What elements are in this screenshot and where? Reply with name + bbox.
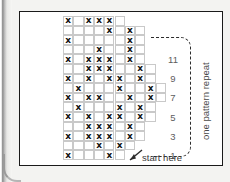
grid-cell — [63, 122, 73, 132]
grid-cell — [135, 112, 145, 122]
grid-cell — [104, 83, 114, 93]
start-here-label: start here — [142, 152, 182, 163]
grid-cell — [73, 102, 83, 112]
grid-cell — [104, 93, 114, 103]
grid-cell — [94, 64, 104, 74]
grid-cell — [104, 26, 114, 36]
grid-cell — [94, 35, 104, 45]
grid-cell — [63, 131, 73, 141]
grid-cell — [135, 26, 145, 36]
grid-cell — [115, 64, 125, 74]
grid-cell — [104, 102, 114, 112]
grid-cell — [63, 35, 73, 45]
grid-cell — [63, 26, 73, 36]
chart-page: xxxxxxxxxxxxxxxxxxxxxxxxxxxxxxxxxxxxxxxx… — [0, 0, 230, 182]
grid-cell — [73, 26, 83, 36]
grid-cell — [135, 35, 145, 45]
grid-cell — [84, 102, 94, 112]
grid-cell — [73, 131, 83, 141]
grid-cell — [63, 74, 73, 84]
grid-cell — [94, 16, 104, 26]
grid-cell — [84, 74, 94, 84]
grid-cell — [73, 93, 83, 103]
grid-cell — [135, 122, 145, 132]
grid-cell — [104, 131, 114, 141]
grid-cell — [125, 122, 135, 132]
grid-cell — [135, 54, 145, 64]
start-here-arrow — [122, 148, 144, 164]
grid-cell — [94, 83, 104, 93]
grid-cell — [84, 83, 94, 93]
grid-cell — [94, 54, 104, 64]
grid-cell — [84, 131, 94, 141]
grid-cell — [84, 54, 94, 64]
grid-cell — [125, 35, 135, 45]
grid-cell — [115, 54, 125, 64]
grid-cell — [115, 74, 125, 84]
grid-cell — [94, 150, 104, 160]
grid-cell — [125, 93, 135, 103]
grid-cell — [84, 141, 94, 151]
grid-cell — [125, 112, 135, 122]
grid-cell — [94, 112, 104, 122]
grid-cell — [125, 83, 135, 93]
grid-cell — [135, 74, 145, 84]
grid-cell — [94, 74, 104, 84]
grid-cell — [104, 54, 114, 64]
grid-cell — [63, 112, 73, 122]
grid-cell — [84, 64, 94, 74]
grid-cell — [135, 64, 145, 74]
grid-cell — [94, 93, 104, 103]
grid-cell — [84, 112, 94, 122]
grid-cell — [125, 64, 135, 74]
grid-cell — [73, 35, 83, 45]
grid-cell — [94, 122, 104, 132]
grid-cell — [115, 93, 125, 103]
grid-cell — [63, 45, 73, 55]
grid-cell — [125, 131, 135, 141]
grid-cell — [94, 141, 104, 151]
grid-cell — [115, 122, 125, 132]
grid-cell — [63, 54, 73, 64]
grid-cell — [125, 26, 135, 36]
grid-cell — [115, 83, 125, 93]
pattern-repeat-bracket — [151, 37, 191, 157]
grid-cell — [94, 45, 104, 55]
grid-cell — [84, 26, 94, 36]
grid-cell — [84, 93, 94, 103]
grid-cell — [94, 131, 104, 141]
grid-cell — [73, 141, 83, 151]
grid-cell — [115, 35, 125, 45]
grid-cell — [73, 83, 83, 93]
grid-cell — [115, 16, 125, 26]
grid-cell — [104, 45, 114, 55]
grid-cell — [84, 150, 94, 160]
grid-cell — [135, 45, 145, 55]
grid-cell — [84, 45, 94, 55]
grid-cell — [135, 102, 145, 112]
grid-cell — [125, 102, 135, 112]
grid-cell — [104, 112, 114, 122]
grid-cell — [63, 93, 73, 103]
pattern-repeat-label: one pattern repeat — [200, 62, 211, 140]
grid-cell — [94, 102, 104, 112]
grid-cell — [84, 122, 94, 132]
grid-cell — [73, 112, 83, 122]
grid-cell — [104, 74, 114, 84]
grid-cell — [125, 74, 135, 84]
grid-cell — [115, 112, 125, 122]
grid-cell — [84, 35, 94, 45]
grid-cell — [84, 16, 94, 26]
grid-cell — [104, 150, 114, 160]
grid-cell — [63, 150, 73, 160]
grid-cell — [135, 83, 145, 93]
grid-cell — [115, 131, 125, 141]
grid-cell — [73, 64, 83, 74]
grid-cell — [104, 35, 114, 45]
grid-cell — [73, 54, 83, 64]
grid-cell — [125, 45, 135, 55]
grid-cell — [135, 93, 145, 103]
grid-cell — [63, 64, 73, 74]
grid-cell — [135, 131, 145, 141]
grid-cell — [115, 26, 125, 36]
